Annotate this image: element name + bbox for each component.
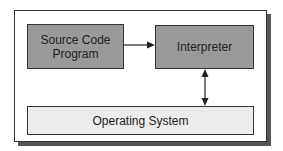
arrow-interpreter-os-bidirectional: [202, 69, 209, 106]
arrow-source-to-interpreter: [124, 42, 155, 49]
arrows-layer: [0, 0, 283, 151]
